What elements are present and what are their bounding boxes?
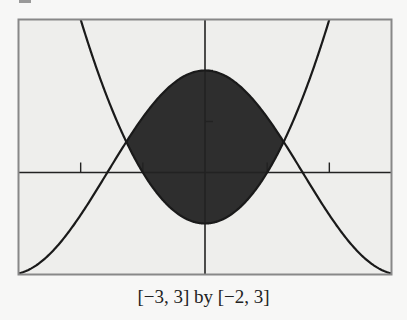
- window-range-caption: [−3, 3] by [−2, 3]: [0, 286, 407, 308]
- graph-window: [0, 0, 407, 285]
